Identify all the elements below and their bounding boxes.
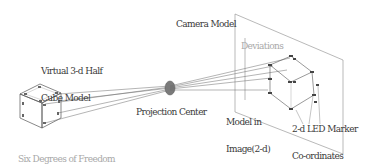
cube-model-label-line2: Cube Model xyxy=(41,94,102,103)
projection-center-label: Projection Center xyxy=(136,108,207,117)
model-in-image-label: Model in Image(2-d) xyxy=(226,100,270,167)
projection-rays-image xyxy=(170,58,290,90)
led-marker-line2: Co-ordinates xyxy=(292,152,358,161)
cube-model-label-line1: Virtual 3-d Half xyxy=(41,67,102,76)
led-marker-line1: 2-d LED Marker xyxy=(292,125,358,134)
model-in-image-line2: Image(2-d) xyxy=(226,145,270,154)
six-dof-label: Six Degrees of Freedom (Translation and … xyxy=(18,137,115,167)
projection-diagram: Virtual 3-d Half Cube Model Six Degrees … xyxy=(0,0,373,167)
camera-model-label: Camera Model xyxy=(176,20,236,29)
six-dof-label-line1: Six Degrees of Freedom xyxy=(18,155,115,164)
model-in-image-line1: Model in xyxy=(226,118,270,127)
led-marker-label: 2-d LED Marker Co-ordinates xyxy=(292,107,358,167)
deviations-label: Deviations xyxy=(241,42,283,51)
projected-cube-model xyxy=(268,55,319,110)
cube-model-label: Virtual 3-d Half Cube Model xyxy=(41,49,102,121)
